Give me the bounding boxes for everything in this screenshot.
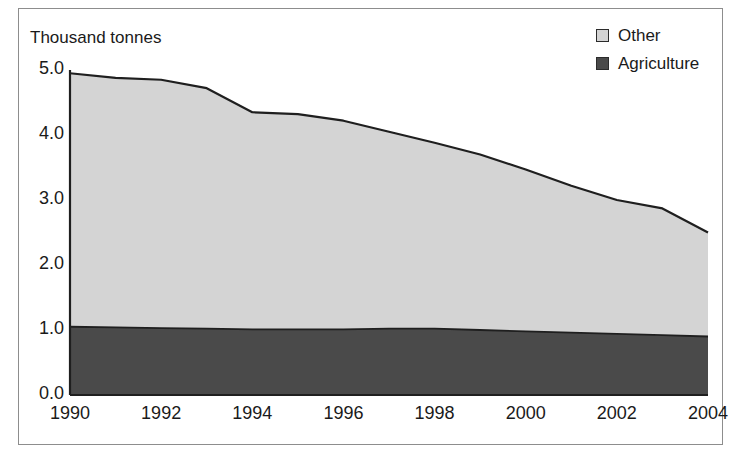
x-tick-label: 2002 — [577, 403, 657, 424]
x-tick-label: 2004 — [668, 403, 741, 424]
y-tick-label: 1.0 — [18, 318, 64, 339]
legend-label-agriculture: Agriculture — [618, 54, 699, 74]
y-tick-label: 5.0 — [18, 58, 64, 79]
plot-series-group — [70, 73, 708, 395]
y-tick-label: 4.0 — [18, 123, 64, 144]
chart-figure: Thousand tonnes 0.01.02.03.04.05.0 19901… — [0, 0, 741, 453]
area-agriculture — [70, 327, 708, 395]
y-tick-label: 0.0 — [18, 383, 64, 404]
legend-item-other: Other — [596, 24, 699, 47]
legend-swatch-other — [596, 29, 609, 42]
legend-swatch-agriculture — [596, 57, 609, 70]
y-tick-label: 2.0 — [18, 253, 64, 274]
x-tick-label: 2000 — [486, 403, 566, 424]
area-other — [70, 73, 708, 336]
y-tick-label: 3.0 — [18, 188, 64, 209]
x-tick-label: 1994 — [212, 403, 292, 424]
x-tick-label: 1998 — [395, 403, 475, 424]
legend-item-agriculture: Agriculture — [596, 52, 699, 75]
x-tick-label: 1996 — [303, 403, 383, 424]
chart-legend: Other Agriculture — [596, 24, 699, 80]
x-tick-label: 1992 — [121, 403, 201, 424]
legend-label-other: Other — [618, 26, 661, 46]
x-tick-label: 1990 — [30, 403, 110, 424]
